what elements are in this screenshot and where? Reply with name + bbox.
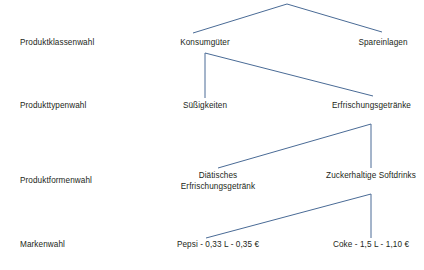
node-spareinlagen: Spareinlagen (333, 38, 424, 49)
edge-erfrischungsgetraenke-to-diaetisches (218, 124, 371, 168)
level-label-produktformenwahl: Produktformenwahl (20, 176, 92, 187)
node-erfrischungsgetraenke: Erfrischungsgetränke (303, 101, 424, 112)
edge-root-to-konsumgueter (193, 4, 287, 33)
hierarchy-diagram: Produktklassenwahl Produkttypenwahl Prod… (0, 0, 424, 270)
edge-root-to-spareinlagen (287, 4, 382, 32)
node-diaetisches-erfrischungsgetraenk: Diätisches Erfrischungsgetränk (170, 171, 266, 192)
level-label-produktklassenwahl: Produktklassenwahl (20, 38, 94, 49)
node-pepsi: Pepsi - 0,33 L - 0,35 € (154, 240, 282, 251)
node-zuckerhaltige-softdrinks: Zuckerhaltige Softdrinks (290, 171, 424, 182)
node-coke: Coke - 1,5 L - 1,10 € (310, 240, 424, 251)
edge-konsumgueter-to-erfrischungsgetraenke (205, 53, 373, 96)
node-suessigkeiten: Süßigkeiten (155, 101, 255, 112)
level-label-markenwahl: Markenwahl (20, 240, 65, 251)
level-label-produkttypenwahl: Produkttypenwahl (20, 101, 86, 112)
edge-zuckerhaltige-to-pepsi (206, 194, 371, 238)
node-konsumgueter: Konsumgüter (155, 38, 255, 49)
